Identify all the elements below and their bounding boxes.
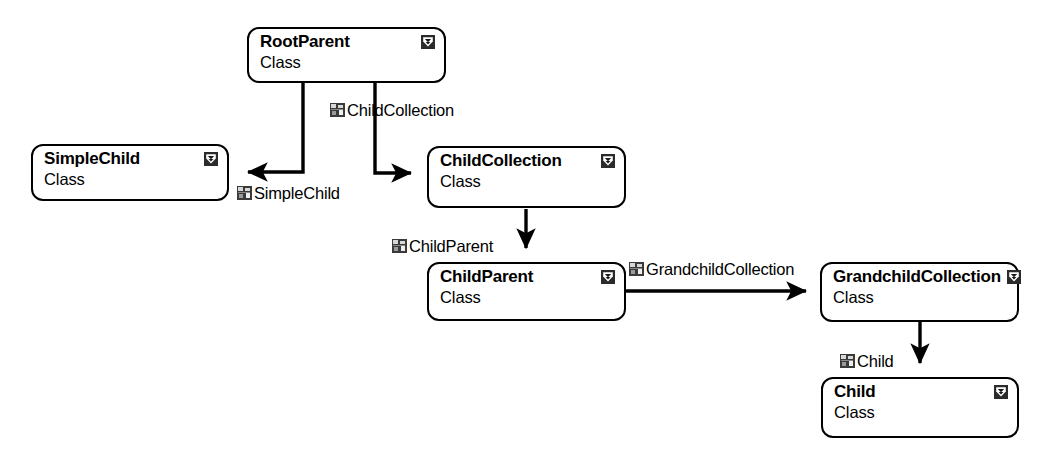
class-collapse-icon[interactable] <box>421 35 435 49</box>
class-stereotype: Class <box>440 173 615 190</box>
class-box-header: ChildParent <box>440 268 615 285</box>
class-box-childparent[interactable]: ChildParent Class <box>427 262 626 321</box>
association-label-text: ChildParent <box>409 238 493 255</box>
class-name: ChildParent <box>440 268 533 285</box>
class-name: RootParent <box>260 33 350 50</box>
class-collapse-icon[interactable] <box>994 385 1008 399</box>
class-name: SimpleChild <box>44 150 140 167</box>
association-label-simplechild[interactable]: SimpleChild <box>237 185 340 202</box>
association-property-icon <box>840 354 855 368</box>
class-stereotype: Class <box>260 54 435 71</box>
class-box-childcollection[interactable]: ChildCollection Class <box>427 146 626 208</box>
class-stereotype: Class <box>833 289 1008 306</box>
class-stereotype: Class <box>834 404 1008 421</box>
class-stereotype: Class <box>440 289 615 306</box>
association-label-text: SimpleChild <box>254 185 340 202</box>
association-property-icon <box>392 239 407 253</box>
class-name: Child <box>834 383 876 400</box>
class-stereotype: Class <box>44 171 218 188</box>
class-box-grandchildcollection[interactable]: GrandchildCollection Class <box>820 262 1019 322</box>
association-label-text: ChildCollection <box>347 102 454 119</box>
class-box-header: Child <box>834 383 1008 400</box>
class-box-header: RootParent <box>260 33 435 50</box>
class-diagram-canvas: RootParent Class SimpleChild Cl <box>0 0 1054 459</box>
class-box-child[interactable]: Child Class <box>821 377 1019 438</box>
association-label-childcollection[interactable]: ChildCollection <box>330 102 454 119</box>
class-box-header: SimpleChild <box>44 150 218 167</box>
association-label-text: Child <box>857 353 894 370</box>
connector-rootparent-childcollection <box>375 82 411 173</box>
association-label-text: GrandchildCollection <box>646 261 794 278</box>
class-name: GrandchildCollection <box>833 268 1001 285</box>
association-label-grandchildcollection[interactable]: GrandchildCollection <box>629 261 794 278</box>
class-box-header: GrandchildCollection <box>833 268 1008 285</box>
association-property-icon <box>629 262 644 276</box>
association-property-icon <box>330 103 345 117</box>
class-box-simplechild[interactable]: SimpleChild Class <box>31 144 229 201</box>
class-box-header: ChildCollection <box>440 152 615 169</box>
class-collapse-icon[interactable] <box>601 270 615 284</box>
association-label-child[interactable]: Child <box>840 353 894 370</box>
connector-rootparent-simplechild <box>248 82 303 172</box>
class-collapse-icon[interactable] <box>1007 270 1021 284</box>
association-label-childparent[interactable]: ChildParent <box>392 238 493 255</box>
association-property-icon <box>237 186 252 200</box>
class-collapse-icon[interactable] <box>601 154 615 168</box>
class-name: ChildCollection <box>440 152 562 169</box>
class-collapse-icon[interactable] <box>204 152 218 166</box>
class-box-rootparent[interactable]: RootParent Class <box>247 27 446 83</box>
